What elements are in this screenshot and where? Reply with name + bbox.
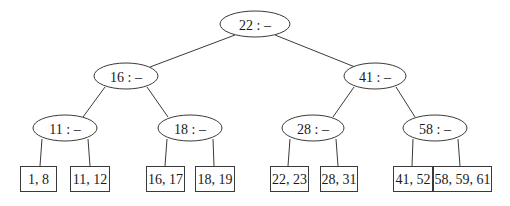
internal-node-n16: 16 : – [94,63,158,89]
node-label: 41 : – [359,70,392,85]
leaf-node-l1: 1, 8 [21,167,57,192]
node-label: 11 : – [49,122,81,137]
edge-n18-l4 [213,139,214,166]
leaf-node-l8: 58, 59, 61 [434,167,492,192]
leaf-label: 16, 17 [148,172,183,187]
edges [40,35,460,166]
edge-n22-n41 [275,35,355,67]
edge-n41-n58 [396,87,415,117]
internal-node-n11: 11 : – [33,115,97,141]
leaf-label: 22, 23 [272,172,307,187]
node-label: 16 : – [110,70,143,85]
node-label: 58 : – [419,122,452,137]
edge-n16-n18 [147,87,168,117]
edge-n58-l8 [458,139,460,166]
leaf-label: 28, 31 [322,172,357,187]
internal-node-n18: 18 : – [158,115,222,141]
leaf-label: 18, 19 [198,172,233,187]
edge-n28-l5 [288,139,290,166]
edge-n58-l7 [412,139,413,166]
node-label: 18 : – [174,122,207,137]
node-label: 28 : – [297,122,330,137]
internal-node-n41: 41 : – [344,63,406,89]
leaf-node-l7: 41, 52 [394,167,433,192]
leaf-label: 58, 59, 61 [435,172,491,187]
internal-node-n58: 58 : – [403,115,467,141]
leaf-node-l6: 28, 31 [321,167,358,192]
leaf-node-l2: 11, 12 [71,167,110,192]
leaf-node-l4: 18, 19 [196,167,235,192]
leaf-label: 41, 52 [396,172,431,187]
leaf-label: 1, 8 [28,172,49,187]
internal-nodes: 22 : –16 : –41 : –11 : –18 : –28 : –58 :… [33,11,467,141]
edge-n16-n11 [83,87,105,117]
edge-n28-l6 [336,139,338,166]
internal-node-n28: 28 : – [282,115,344,141]
internal-node-n22: 22 : – [220,11,290,37]
leaf-node-l3: 16, 17 [147,167,185,192]
leaf-nodes: 1, 811, 1216, 1718, 1922, 2328, 3141, 52… [21,167,492,192]
edge-n22-n16 [150,35,235,67]
edge-n41-n28 [333,87,354,117]
leaf-node-l5: 22, 23 [271,167,309,192]
node-label: 22 : – [239,18,272,33]
tree-diagram: 22 : –16 : –41 : –11 : –18 : –28 : –58 :… [0,0,510,206]
edge-n18-l3 [165,139,167,166]
edge-n11-l1 [40,139,42,166]
leaf-label: 11, 12 [73,172,107,187]
edge-n11-l2 [88,139,90,166]
